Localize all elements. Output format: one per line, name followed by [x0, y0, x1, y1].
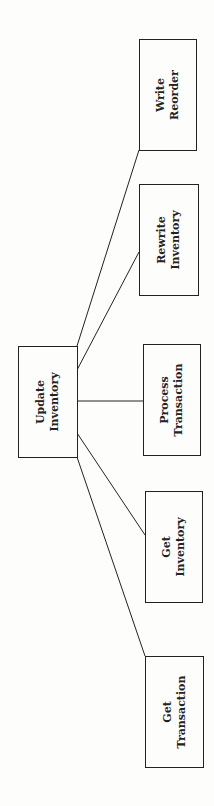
module-label: Get Transaction: [161, 676, 189, 749]
module-get-transaction: Get Transaction: [145, 656, 204, 768]
module-write-reorder: Write Reorder: [139, 39, 197, 151]
connector-get-transaction: [77, 457, 145, 656]
module-label: Write Reorder: [154, 70, 182, 120]
module-label: Get Inventory: [160, 517, 188, 576]
connector-rewrite-inventory: [77, 252, 139, 370]
module-label: Update Inventory: [34, 372, 62, 431]
connector-get-inventory: [77, 433, 145, 535]
module-label: Rewrite Inventory: [155, 210, 183, 269]
module-label: Process Transaction: [158, 364, 186, 437]
module-process-transaction: Process Transaction: [143, 344, 201, 456]
module-rewrite-inventory: Rewrite Inventory: [139, 184, 199, 296]
connector-write-reorder: [77, 150, 139, 346]
module-update-inventory: Update Inventory: [18, 346, 78, 458]
module-get-inventory: Get Inventory: [145, 491, 203, 603]
